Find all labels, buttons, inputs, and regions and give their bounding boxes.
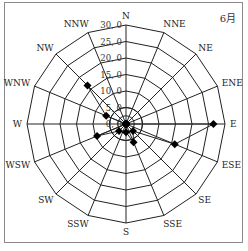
data-point-wsw bbox=[93, 132, 101, 140]
radial-tick-label: 25, 0 bbox=[100, 37, 122, 47]
direction-label-se: SE bbox=[198, 195, 211, 205]
data-point-e bbox=[209, 120, 217, 128]
radial-tick-label: 15, 0 bbox=[100, 70, 122, 80]
direction-label-ene: ENE bbox=[222, 78, 243, 88]
radial-tick-label: 30, 0 bbox=[100, 20, 122, 30]
direction-label-ssw: SSW bbox=[67, 219, 89, 229]
radial-tick-label: 0, 0 bbox=[106, 119, 122, 129]
direction-label-nne: NNE bbox=[163, 19, 185, 29]
radial-tick-label: 10, 0 bbox=[100, 86, 122, 96]
direction-label-ese: ESE bbox=[222, 160, 241, 170]
wind-rose-chart: 0, 05, 010, 015, 020, 025, 030, 0 NNNENE… bbox=[0, 0, 248, 251]
direction-label-nw: NW bbox=[36, 43, 54, 53]
direction-label-s: S bbox=[123, 227, 129, 237]
direction-label-sse: SSE bbox=[163, 219, 182, 229]
direction-label-wnw: WNW bbox=[4, 78, 31, 88]
direction-label-w: W bbox=[13, 119, 23, 129]
direction-label-ne: NE bbox=[198, 43, 212, 53]
direction-label-sw: SW bbox=[38, 195, 54, 205]
radial-tick-labels: 0, 05, 010, 015, 020, 025, 030, 0 bbox=[100, 20, 122, 129]
direction-label-wsw: WSW bbox=[6, 160, 31, 170]
data-point-s bbox=[122, 128, 130, 136]
direction-label-e: E bbox=[230, 119, 237, 129]
direction-label-n: N bbox=[122, 11, 130, 21]
direction-label-nnw: NNW bbox=[64, 19, 90, 29]
radial-tick-label: 5, 0 bbox=[106, 103, 122, 113]
radial-tick-label: 20, 0 bbox=[100, 53, 122, 63]
